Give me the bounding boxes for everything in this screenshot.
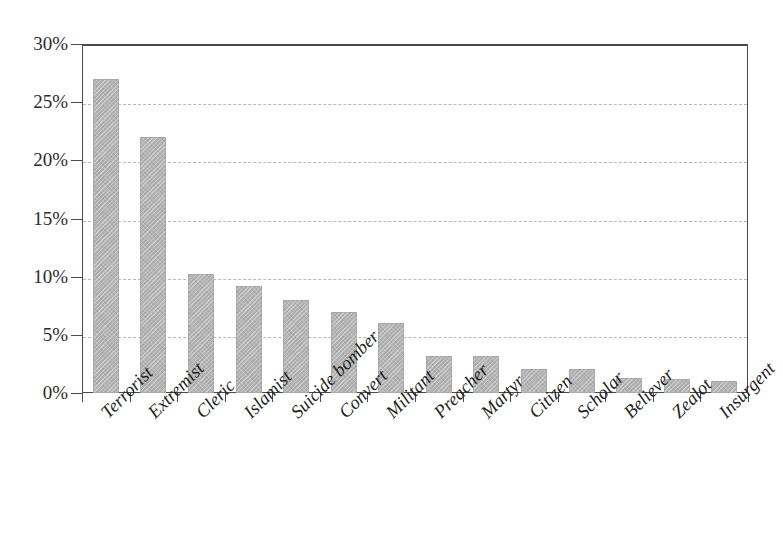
bar <box>93 79 119 393</box>
y-tick-label: 5% <box>43 324 68 346</box>
y-tick-label: 30% <box>33 33 68 55</box>
bar-chart-figure: 0%5%10%15%20%25%30% TerroristExtremistCl… <box>0 0 783 535</box>
y-tick-mark <box>71 102 82 103</box>
y-axis: 0%5%10%15%20%25%30% <box>0 0 82 420</box>
y-tick-mark <box>71 160 82 161</box>
x-tick-mark <box>82 393 83 402</box>
y-tick-mark <box>71 44 82 45</box>
y-tick-label: 0% <box>43 382 68 404</box>
y-tick-label: 25% <box>33 91 68 113</box>
y-tick-mark <box>71 335 82 336</box>
y-tick-mark <box>71 277 82 278</box>
y-tick-label: 10% <box>33 266 68 288</box>
y-tick-mark <box>71 219 82 220</box>
y-tick-label: 20% <box>33 149 68 171</box>
bar <box>236 286 262 393</box>
y-tick-label: 15% <box>33 208 68 230</box>
bars-layer <box>82 44 748 393</box>
y-tick-mark <box>71 393 82 394</box>
bar <box>140 137 166 393</box>
